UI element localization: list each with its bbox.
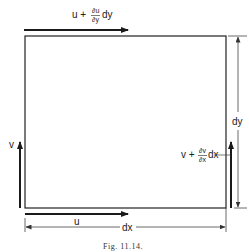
dy-dimension-label: dy — [232, 116, 243, 127]
dx-dimension-label: dx — [122, 222, 133, 233]
figure-caption: Fig. 11.14. — [103, 242, 143, 251]
fluid-element-rect — [25, 36, 226, 208]
top-label-suffix: dy — [102, 9, 113, 20]
bottom-label: u — [74, 216, 80, 227]
top-label-base: u + — [72, 9, 86, 20]
fluid-element-diagram: u + ∂u ∂y dy v + ∂v ∂x dx v u dx dy Fig.… — [0, 0, 249, 252]
left-label: v — [9, 139, 14, 150]
right-label-suffix: dx — [208, 149, 219, 160]
right-label-base: v + — [181, 149, 195, 160]
right-label-num: ∂v — [199, 147, 206, 154]
right-label-den: ∂x — [199, 156, 206, 163]
top-label-num: ∂u — [92, 7, 99, 14]
top-label-den: ∂y — [92, 16, 99, 24]
